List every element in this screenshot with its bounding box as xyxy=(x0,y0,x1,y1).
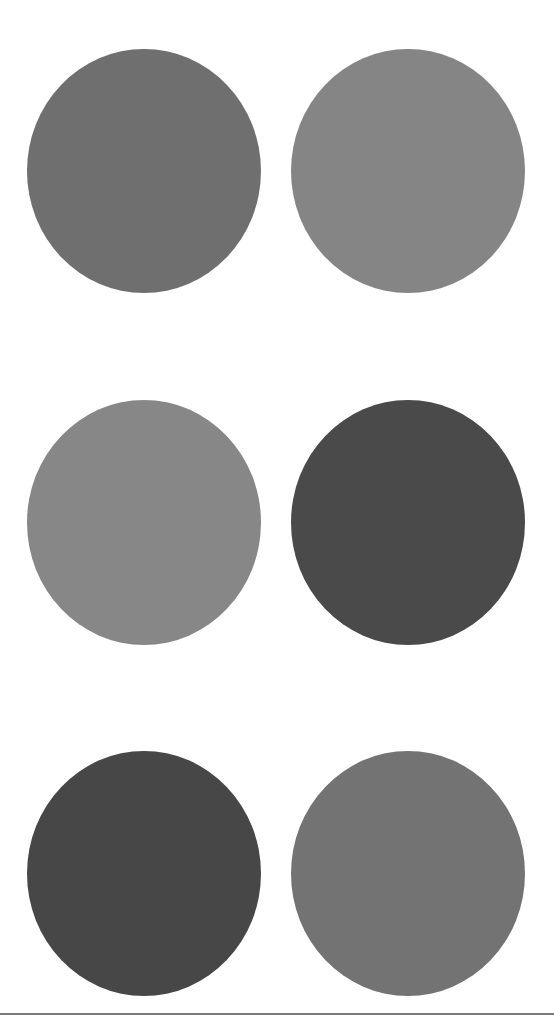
circle-row2-left xyxy=(27,400,261,645)
circle-row3-left xyxy=(27,751,261,996)
circle-row1-right xyxy=(291,49,525,293)
circle-row1-left xyxy=(27,49,261,293)
circle-row3-right xyxy=(291,751,525,996)
circle-row2-right xyxy=(291,400,525,645)
bottom-divider-line xyxy=(0,1013,554,1015)
